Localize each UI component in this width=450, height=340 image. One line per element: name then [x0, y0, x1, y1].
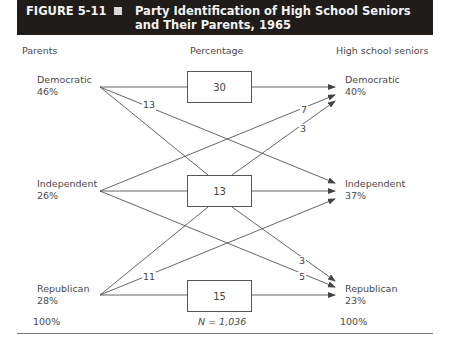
senior-republican-label: Republican: [345, 283, 397, 295]
flow-dem-to-ind: 13: [142, 100, 156, 110]
senior-independent-pct: 37%: [345, 190, 366, 202]
senior-republican-pct: 23%: [345, 295, 366, 307]
box-value: 13: [213, 186, 226, 197]
parent-republican-label: Republican: [37, 283, 89, 295]
senior-democratic-pct: 40%: [345, 86, 366, 98]
total-seniors: 100%: [340, 316, 367, 328]
parent-republican-pct: 28%: [37, 295, 58, 307]
box-ind-ind: 13: [187, 175, 252, 207]
senior-democratic-label: Democratic: [345, 74, 400, 86]
flow-ind-to-rep: 5: [298, 272, 306, 282]
flow-dem-to-rep: 3: [298, 256, 306, 266]
box-rep-rep: 15: [187, 280, 252, 312]
parent-democratic-pct: 46%: [37, 86, 58, 98]
parent-democratic-label: Democratic: [37, 74, 92, 86]
total-parents: 100%: [33, 316, 60, 328]
box-value: 30: [213, 82, 226, 93]
parent-independent-pct: 26%: [37, 190, 58, 202]
sample-size: N = 1,036: [198, 316, 246, 328]
parent-independent-label: Independent: [37, 178, 97, 190]
senior-independent-label: Independent: [345, 178, 405, 190]
bottom-rule: [17, 333, 433, 334]
flow-rep-to-dem: 3: [299, 124, 307, 134]
flow-rep-to-ind: 11: [142, 272, 156, 282]
box-dem-dem: 30: [187, 71, 252, 103]
flow-ind-to-dem: 7: [300, 105, 308, 115]
box-value: 15: [213, 291, 226, 302]
